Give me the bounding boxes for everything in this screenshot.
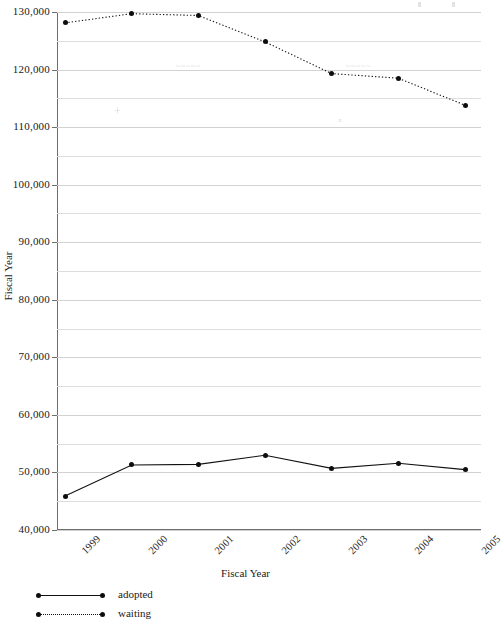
gridline-major	[57, 530, 481, 531]
y-tick-mark	[52, 127, 57, 128]
x-tick-label: 2004	[413, 533, 436, 556]
y-tick-label: 100,000	[13, 179, 50, 190]
y-tick-mark	[52, 70, 57, 71]
scan-speck	[452, 2, 455, 7]
y-tick-mark	[52, 242, 57, 243]
y-tick-label: 80,000	[19, 294, 50, 305]
y-tick-label: 110,000	[13, 121, 50, 132]
y-tick-label: 90,000	[19, 236, 50, 247]
series-line-adopted	[65, 455, 465, 496]
y-tick-mark	[52, 357, 57, 358]
y-tick-label: 50,000	[19, 466, 50, 477]
data-point-waiting-2001	[196, 13, 201, 18]
x-tick-label: 1999	[79, 533, 102, 556]
y-tick-label: 120,000	[13, 64, 50, 75]
y-tick-label: 70,000	[19, 351, 50, 362]
legend-item-adopted: adopted	[30, 586, 270, 605]
x-axis-title: Fiscal Year	[0, 567, 491, 579]
y-tick-mark	[52, 472, 57, 473]
x-tick-label: 2003	[346, 533, 369, 556]
legend-label: adopted	[118, 588, 153, 600]
y-tick-mark	[52, 530, 57, 531]
y-tick-mark	[52, 185, 57, 186]
data-point-adopted-2002	[263, 453, 268, 458]
y-tick-mark	[52, 300, 57, 301]
x-tick-label: 2005	[479, 533, 502, 556]
legend-line-sample	[38, 595, 102, 596]
scan-speck	[418, 2, 421, 7]
data-point-adopted-2001	[196, 462, 201, 467]
series-line-waiting	[65, 14, 465, 106]
x-tick-label: 2001	[213, 533, 236, 556]
y-axis-ticks: 130,000120,000110,000100,00090,00080,000…	[0, 0, 50, 625]
legend-label: waiting	[118, 607, 151, 619]
legend-line-sample	[38, 614, 102, 616]
data-point-waiting-2004	[396, 76, 401, 81]
data-point-adopted-2005	[463, 467, 468, 472]
legend-marker-dot	[36, 612, 41, 617]
data-point-adopted-1999	[63, 494, 68, 499]
y-tick-mark	[52, 12, 57, 13]
y-tick-label: 40,000	[19, 524, 50, 535]
y-tick-label: 60,000	[19, 409, 50, 420]
legend-item-waiting: waiting	[30, 605, 270, 624]
plot-area	[57, 12, 481, 530]
x-tick-label: 2002	[279, 533, 302, 556]
data-point-waiting-2005	[463, 103, 468, 108]
legend-marker-dot	[100, 593, 105, 598]
legend-marker-dot	[36, 593, 41, 598]
legend-marker-dot	[100, 612, 105, 617]
series-lines	[57, 12, 481, 530]
data-point-adopted-2004	[396, 461, 401, 466]
x-tick-label: 2000	[146, 533, 169, 556]
y-tick-label: 130,000	[13, 6, 50, 17]
chart-legend: adoptedwaiting	[30, 586, 270, 624]
y-tick-mark	[52, 415, 57, 416]
